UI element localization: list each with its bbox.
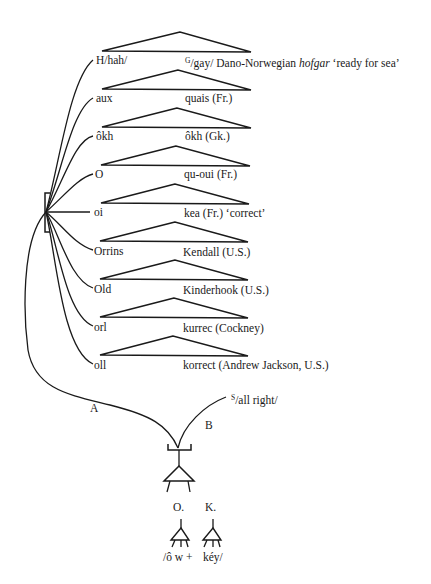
branch-a-label: A	[90, 402, 98, 415]
row-2-right: ôkh (Gk.)	[185, 130, 230, 143]
row-3-left: O	[95, 168, 103, 181]
row-1-right: quais (Fr.)	[185, 92, 232, 105]
leaf-o: /ô w +	[163, 551, 193, 564]
lower-triangle	[164, 466, 194, 481]
row-2-left: ôkh	[96, 130, 113, 143]
row-0-italic: hofgar	[299, 57, 330, 69]
row-8-right: korrect (Andrew Jackson, U.S.)	[183, 359, 329, 372]
row-4-left: oi	[94, 206, 103, 219]
branch-b-label: B	[205, 419, 213, 432]
row-0-left: H/hah/	[96, 54, 127, 67]
row-0-tail: ‘ready for sea’	[330, 57, 400, 69]
row-5-right: Kendall (U.S.)	[183, 246, 250, 259]
row-8-left: oll	[94, 359, 106, 372]
branch-b-curve	[178, 397, 226, 448]
all-right-text: /all right/	[235, 394, 277, 406]
row-6-right: Kinderhook (U.S.)	[183, 284, 269, 297]
row-6-left: Old	[94, 283, 111, 296]
row-3-right: qu-oui (Fr.)	[184, 168, 237, 181]
branch-curves	[46, 60, 93, 364]
lower-bracket	[168, 444, 191, 450]
row-0-right: G/gay/ Dano-Norwegian hofgar ‘ready for …	[185, 54, 400, 70]
node-k: K.	[205, 501, 216, 514]
row-1-left: aux	[96, 92, 113, 105]
row-4-right: kea (Fr.) ‘correct’	[184, 207, 265, 220]
leaf-k: kéy/	[203, 551, 223, 564]
row-7-left: orl	[94, 321, 107, 334]
row-7-right: kurrec (Cockney)	[183, 322, 264, 335]
row-5-left: Orrins	[94, 245, 123, 258]
triangles	[100, 32, 251, 356]
row-0-right-text: /gay/ Dano-Norwegian	[190, 57, 299, 69]
all-right-label: S/all right/	[231, 391, 278, 407]
node-o: O.	[173, 501, 184, 514]
